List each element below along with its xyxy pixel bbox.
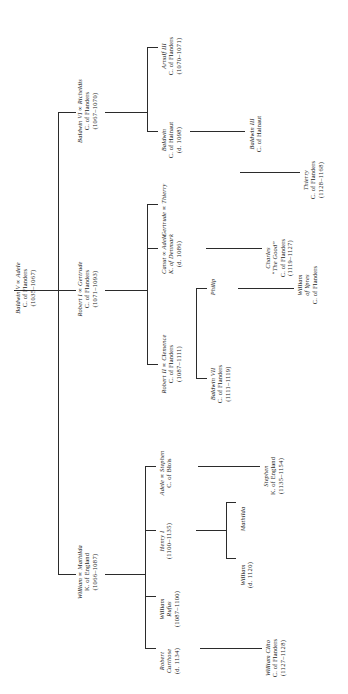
connector-gen2-spine [58,112,59,574]
node-robert-ii: Robert II ∞ Clemence C. of Flanders (108… [160,308,182,420]
node-baldwin-vii-title: C. of Flanders [216,334,223,434]
connector-williami-bus [145,466,146,648]
node-william-d1120-name: William [239,540,246,610]
node-stephen-england-title: K. of England [269,428,276,524]
connector-henryi-bus [226,502,227,558]
connector-baldwinvi-bus [147,47,148,131]
node-robert-i: Robert I ∞ Gertrude C. of Flanders (1071… [76,233,98,345]
connector-canut [147,248,158,249]
node-stephen-england-name: Stephen [262,428,269,524]
connector-roberti-stem [105,290,147,291]
node-baldwin-iii-hainaut-name: Baldwin III [248,86,255,182]
node-robert-ii-title: C. of Flanders [167,308,174,420]
node-baldwin-hainaut-title: C. of Hainaut [167,92,174,188]
node-arnulf-iii: Arnulf III C. of Flanders (1070–1071) [160,8,182,104]
node-robert-i-title: C. of Flanders [83,233,90,345]
node-arnulf-iii-dates: (1070–1071) [175,8,182,104]
node-robert-ii-dates: (1087–1111) [175,308,182,420]
connector-williami-stem [105,574,145,575]
node-thierry-dates: (1128–1168) [317,132,324,228]
connector-henryi-stem [196,530,226,531]
node-william-d1120: William (d. 1120) [239,540,254,610]
node-william-i: William ∞ Mathilda K. of England (1066–1… [76,516,98,628]
node-william-clito: William Clito C. of Flanders (1127–1128) [264,610,286,694]
connector-baldwin-hainaut [147,131,158,132]
node-robert-curthose-dates: (d. 1134) [173,616,180,694]
node-baldwin-vii: Baldwin VII C. of Flanders (1111–1119) [209,334,231,434]
node-william-ypres: William of Ypres C. of Flanders [296,240,318,330]
connector-william-clito [200,648,262,649]
node-charles-title: C. of Flanders [279,210,286,306]
node-baldwin-vii-name: Baldwin VII [209,334,216,434]
connector-baldwiniii [190,131,245,132]
node-baldwin-v-name: Baldwin V ∞ Adele [14,233,21,343]
node-william-clito-dates: (1127–1128) [279,610,286,694]
connector-gen2-roberti [58,290,76,291]
node-robert-curthose-name: Robert [158,616,165,694]
connector-roberti-bus [147,204,148,364]
connector-gen2-william [58,574,76,575]
node-stephen-england-dates: (1135–1154) [277,428,284,524]
connector-charles [206,248,262,249]
node-william-ypres-title: C. of Flanders [311,240,318,330]
connector-baldwinvii [196,378,207,379]
node-baldwin-iii-hainaut: Baldwin III C. of Hainaut [248,86,263,182]
node-baldwin-iii-hainaut-title: C. of Hainaut [255,86,262,182]
node-william-clito-name: William Clito [264,610,271,694]
node-william-i-dates: (1066–1087) [91,516,98,628]
node-canut: Canut ∞ Adele K. of Denmark (d. 1086) [160,206,182,302]
node-thierry-name: Thierry [302,132,309,228]
connector-rufus [145,596,156,597]
node-baldwin-v-dates: (1035–1067) [29,233,36,343]
node-baldwin-vi-dates: (1067–1070) [91,55,98,167]
connector-stephen [198,466,260,467]
connector-robertii [147,364,158,365]
connector-henryi [145,530,156,531]
node-william-d1120-dates: (d. 1120) [246,540,253,610]
node-charles: Charles “The Good” C. of Flanders (1119–… [264,210,294,306]
node-william-ypres-of: of Ypres [303,240,310,330]
connector-philip [196,288,207,289]
node-william-clito-title: C. of Flanders [271,610,278,694]
connector-gertrude [147,204,158,205]
node-baldwin-v: Baldwin V ∞ Adele C. of Flanders (1035–1… [14,233,36,343]
node-robert-i-dates: (1071–1093) [91,233,98,345]
node-charles-epithet: “The Good” [271,210,278,306]
connector-robertii-bus [196,288,197,378]
family-tree-canvas: Baldwin V ∞ Adele C. of Flanders (1035–1… [0,0,348,694]
node-arnulf-iii-name: Arnulf III [160,8,167,104]
node-canut-title: K. of Denmark [167,206,174,302]
node-baldwin-hainaut-dates: (d. 1098) [175,92,182,188]
node-robert-curthose: Robert Curthose (d. 1134) [158,616,180,694]
connector-william1120 [226,558,236,559]
node-stephen-england: Stephen K. of England (1135–1154) [262,428,284,524]
node-arnulf-iii-title: C. of Flanders [167,8,174,104]
node-robert-i-name: Robert I ∞ Gertrude [76,233,83,345]
node-robert-ii-name: Robert II ∞ Clemence [160,308,167,420]
node-baldwin-v-title: C. of Flanders [21,233,28,343]
connector-adele [145,466,156,467]
node-philip: Philip [209,252,216,322]
connector-mathilda [226,502,236,503]
node-canut-dates: (d. 1086) [175,206,182,302]
node-thierry: Thierry C. of Flanders (1128–1168) [302,132,324,228]
node-baldwin-vi-title: C. of Flanders [83,55,90,167]
connector-arnulfiii [147,47,158,48]
node-robert-curthose-epithet: Curthose [165,616,172,694]
node-william-i-name: William ∞ Mathilda [76,516,83,628]
node-baldwin-vi: Baldwin VI ∞ Richeldis C. of Flanders (1… [76,55,98,167]
node-philip-name: Philip [209,252,216,322]
connector-curthose [145,648,156,649]
node-william-i-title: K. of England [83,516,90,628]
connector-baldwinvi-stem [105,112,147,113]
node-canut-name: Canut ∞ Adele [160,206,167,302]
node-charles-name: Charles [264,210,271,306]
node-thierry-title: C. of Flanders [309,132,316,228]
node-baldwin-vii-dates: (1111–1119) [224,334,231,434]
node-charles-dates: (1119–1127) [286,210,293,306]
connector-gen2-baldwinvi [58,112,76,113]
node-baldwin-vi-name: Baldwin VI ∞ Richeldis [76,55,83,167]
node-william-ypres-name: William [296,240,303,330]
